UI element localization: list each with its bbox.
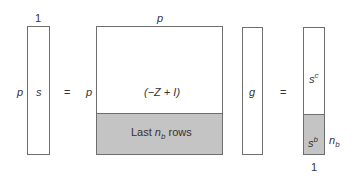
matrix-left-dim: p	[86, 86, 92, 98]
matrix-top-dim: p	[157, 12, 163, 24]
g-label: g	[249, 86, 255, 98]
result-lower-label: sb	[308, 134, 318, 149]
matrix-shaded-label: Last nb rows	[131, 126, 192, 143]
result-side-dim: nb	[329, 134, 340, 151]
s-left-dim: p	[17, 86, 23, 98]
equals-sign-2: =	[280, 86, 286, 98]
result-upper-label: sc	[309, 70, 319, 85]
result-bottom-dim: 1	[311, 161, 317, 173]
matrix-body-label: (−Z + I)	[144, 86, 180, 98]
s-label: s	[36, 86, 42, 98]
equals-sign-1: =	[64, 86, 70, 98]
s-top-dim: 1	[35, 12, 41, 24]
